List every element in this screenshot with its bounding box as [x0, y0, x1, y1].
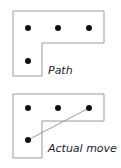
path-dots [25, 25, 92, 64]
move-line [28, 108, 89, 140]
path-label: Path [48, 64, 73, 77]
actual-move-label: Actual move [48, 142, 117, 155]
